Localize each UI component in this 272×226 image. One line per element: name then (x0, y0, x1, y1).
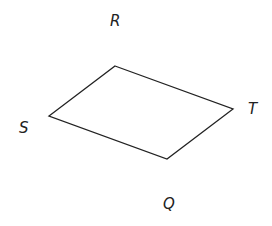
label-t: T (248, 100, 259, 118)
label-s: S (19, 119, 29, 137)
parallelogram-shape (49, 66, 233, 159)
label-q: Q (163, 195, 175, 213)
label-r: R (110, 12, 120, 30)
quadrilateral-diagram: R T S Q (0, 0, 272, 226)
